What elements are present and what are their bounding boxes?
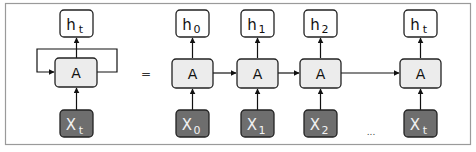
timestep-2: h 2 A X 2 (300, 10, 341, 137)
input-subscript: 2 (322, 124, 329, 137)
output-box-h2 (304, 10, 337, 37)
equals-sign: = (141, 67, 151, 81)
input-subscript: t (79, 124, 84, 137)
input-label: X (310, 116, 320, 134)
cell-label: A (416, 66, 426, 82)
output-label: h (66, 16, 76, 34)
output-subscript: 2 (322, 23, 329, 36)
input-label: X (66, 116, 76, 134)
output-subscript: t (423, 23, 428, 36)
output-label: h (410, 16, 420, 34)
cell-label: A (316, 66, 326, 82)
input-label: X (182, 116, 192, 134)
input-label: X (247, 116, 257, 134)
output-subscript: t (79, 23, 84, 36)
input-subscript: 0 (194, 124, 201, 137)
output-box-ht: h t (60, 10, 93, 37)
output-box-h0 (176, 10, 209, 37)
input-label: X (410, 116, 420, 134)
cell-label: A (253, 66, 263, 82)
ellipsis: ... (367, 127, 376, 137)
output-subscript: 1 (259, 23, 266, 36)
cell-label: A (71, 65, 81, 81)
output-label: h (310, 16, 320, 34)
output-box-h1 (241, 10, 274, 37)
output-subscript: 0 (194, 23, 201, 36)
rnn-cell-box: A (55, 58, 97, 87)
timestep-0: h 0 A X 0 (172, 10, 213, 137)
rnn-diagram: h t A X t = h 0 A X 0 h 1 (0, 0, 476, 152)
timestep-1: h 1 A X 1 (237, 10, 278, 137)
timestep-t: h t A X t (400, 10, 441, 137)
input-subscript: t (423, 124, 428, 137)
output-label: h (182, 16, 192, 34)
output-label: h (247, 16, 257, 34)
input-box-xt: X t (60, 110, 93, 137)
output-box-ht (404, 10, 437, 37)
cell-label: A (188, 66, 198, 82)
input-subscript: 1 (259, 124, 266, 137)
